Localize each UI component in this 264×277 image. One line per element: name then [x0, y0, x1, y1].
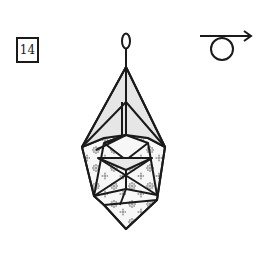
origami-diagram: [0, 0, 264, 277]
hanging-loop: [122, 34, 130, 49]
origami-model: [82, 67, 165, 229]
turn-over-rotate-icon: [200, 31, 251, 60]
